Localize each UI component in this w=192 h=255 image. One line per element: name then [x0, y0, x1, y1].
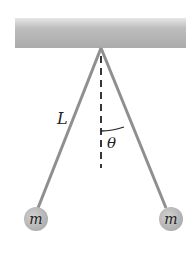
string-left: [38, 48, 101, 208]
length-label: L: [56, 109, 68, 128]
angle-arc: [101, 127, 124, 131]
pendulum-diagram: L θ m m: [0, 0, 192, 255]
mass-right-label: m: [164, 211, 177, 227]
string-right: [101, 48, 166, 208]
ceiling-support: [15, 18, 186, 48]
angle-label: θ: [107, 134, 116, 152]
mass-left-label: m: [29, 211, 42, 227]
